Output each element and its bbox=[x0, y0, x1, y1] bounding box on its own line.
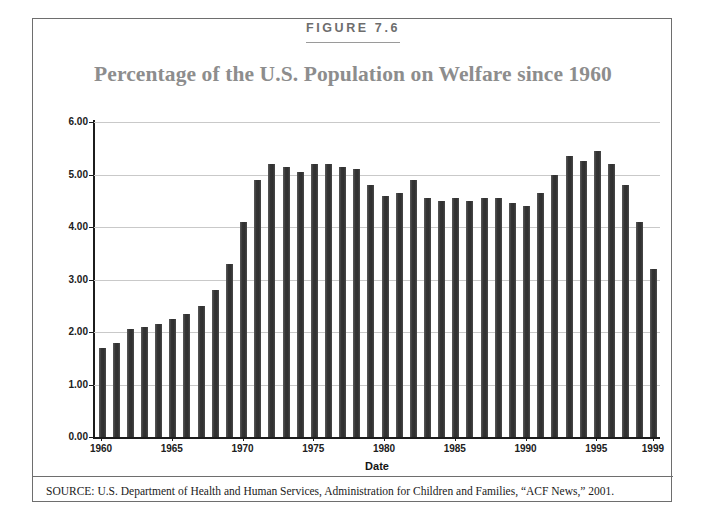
bar-1978 bbox=[353, 169, 360, 437]
x-tick-label: 1960 bbox=[79, 443, 123, 454]
bar-1991 bbox=[537, 193, 544, 437]
bar-1971 bbox=[254, 180, 261, 437]
x-tick-mark bbox=[172, 437, 173, 441]
figure-number-label: FIGURE 7.6 bbox=[306, 21, 400, 43]
bar-1989 bbox=[509, 203, 516, 437]
bar-1964 bbox=[155, 324, 162, 437]
gridline-0 bbox=[94, 437, 660, 439]
y-tick-mark bbox=[89, 175, 94, 176]
y-tick-label: 6.00 bbox=[42, 116, 88, 127]
bar-1970 bbox=[240, 222, 247, 437]
bar-1985 bbox=[452, 198, 459, 437]
bar-1980 bbox=[382, 196, 389, 438]
source-divider bbox=[33, 476, 673, 477]
bar-1996 bbox=[608, 164, 615, 437]
chart-title: Percentage of the U.S. Population on Wel… bbox=[0, 62, 706, 87]
bar-1962 bbox=[127, 329, 134, 437]
x-tick-label: 1990 bbox=[504, 443, 548, 454]
bar-1997 bbox=[622, 185, 629, 437]
bar-1999 bbox=[650, 269, 657, 437]
bar-1983 bbox=[424, 198, 431, 437]
y-tick-mark bbox=[89, 122, 94, 123]
x-tick-label: 1985 bbox=[433, 443, 477, 454]
bar-1977 bbox=[339, 167, 346, 437]
x-tick-mark bbox=[313, 437, 314, 441]
x-tick-mark bbox=[526, 437, 527, 441]
bar-1966 bbox=[183, 314, 190, 437]
y-tick-label: 3.00 bbox=[42, 274, 88, 285]
bar-1965 bbox=[169, 319, 176, 437]
bar-1990 bbox=[523, 206, 530, 437]
bar-1968 bbox=[212, 290, 219, 437]
y-tick-label: 0.00 bbox=[42, 431, 88, 442]
bar-1972 bbox=[268, 164, 275, 437]
bar-1976 bbox=[325, 164, 332, 437]
x-tick-label: 1965 bbox=[150, 443, 194, 454]
bar-1994 bbox=[580, 161, 587, 437]
bar-1981 bbox=[396, 193, 403, 437]
bar-1986 bbox=[466, 201, 473, 437]
bar-1961 bbox=[113, 343, 120, 438]
y-tick-mark bbox=[89, 437, 94, 438]
y-tick-mark bbox=[89, 280, 94, 281]
bar-1963 bbox=[141, 327, 148, 437]
bars-group bbox=[94, 122, 660, 437]
bar-1974 bbox=[297, 172, 304, 437]
bar-1984 bbox=[438, 201, 445, 437]
figure-container: FIGURE 7.6 Percentage of the U.S. Popula… bbox=[0, 0, 706, 521]
bar-1969 bbox=[226, 264, 233, 437]
bar-1987 bbox=[481, 198, 488, 437]
bar-1988 bbox=[495, 198, 502, 437]
x-tick-mark bbox=[653, 437, 654, 441]
y-tick-label: 2.00 bbox=[42, 326, 88, 337]
x-tick-label: 1975 bbox=[291, 443, 335, 454]
x-tick-mark bbox=[243, 437, 244, 441]
x-tick-mark bbox=[596, 437, 597, 441]
y-tick-label: 1.00 bbox=[42, 379, 88, 390]
x-axis-title: Date bbox=[94, 460, 660, 472]
bar-1960 bbox=[99, 348, 106, 437]
y-tick-mark bbox=[89, 332, 94, 333]
bar-1967 bbox=[198, 306, 205, 437]
y-tick-mark bbox=[89, 385, 94, 386]
x-tick-label: 1995 bbox=[574, 443, 618, 454]
bar-1992 bbox=[551, 175, 558, 438]
x-tick-label: 1980 bbox=[362, 443, 406, 454]
bar-1975 bbox=[311, 164, 318, 437]
bar-1993 bbox=[566, 156, 573, 437]
bar-1998 bbox=[636, 222, 643, 437]
y-tick-mark bbox=[89, 227, 94, 228]
y-tick-label: 4.00 bbox=[42, 221, 88, 232]
bar-1979 bbox=[367, 185, 374, 437]
x-tick-label: 1970 bbox=[221, 443, 265, 454]
source-note: SOURCE: U.S. Department of Health and Hu… bbox=[46, 485, 614, 497]
figure-label-wrapper: FIGURE 7.6 bbox=[0, 18, 706, 43]
bar-1982 bbox=[410, 180, 417, 437]
bar-1973 bbox=[283, 167, 290, 437]
plot-area bbox=[94, 122, 660, 437]
x-tick-mark bbox=[455, 437, 456, 441]
bar-1995 bbox=[594, 151, 601, 437]
y-tick-label: 5.00 bbox=[42, 169, 88, 180]
x-tick-label: 1999 bbox=[631, 443, 675, 454]
x-tick-mark bbox=[384, 437, 385, 441]
x-tick-mark bbox=[101, 437, 102, 441]
